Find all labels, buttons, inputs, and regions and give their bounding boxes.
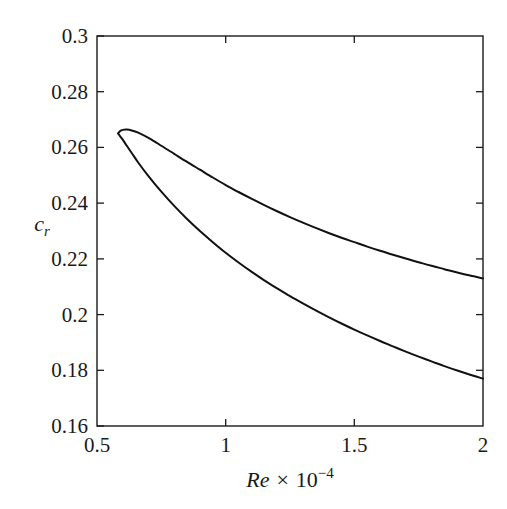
x-tick-labels: 0.5 1 1.5 2 xyxy=(84,433,488,457)
y-axis-title: cr xyxy=(34,211,50,239)
x-axis-title-symbol: Re xyxy=(245,467,269,492)
svg-text:cr: cr xyxy=(34,211,50,239)
x-tick-label-1: 1 xyxy=(220,433,231,457)
x-axis-title: Re×10−4 xyxy=(245,465,334,492)
y-tick-label-1: 0.18 xyxy=(51,358,88,382)
x-tick-marks xyxy=(226,36,355,426)
y-tick-label-2: 0.2 xyxy=(62,303,88,327)
y-tick-label-3: 0.22 xyxy=(51,247,88,271)
data-curves xyxy=(118,130,483,379)
axes-frame xyxy=(97,36,483,426)
y-axis-title-subscript: r xyxy=(44,223,50,239)
x-tick-label-0: 0.5 xyxy=(84,433,110,457)
x-axis-title-base: 10 xyxy=(296,467,318,492)
x-tick-label-3: 2 xyxy=(478,433,489,457)
y-tick-label-4: 0.24 xyxy=(51,191,88,215)
y-axis-title-symbol: c xyxy=(34,211,44,236)
y-tick-label-0: 0.16 xyxy=(51,414,88,438)
y-tick-label-6: 0.28 xyxy=(51,80,88,104)
y-tick-label-7: 0.3 xyxy=(62,24,88,48)
y-tick-label-5: 0.26 xyxy=(51,135,88,159)
y-tick-marks xyxy=(97,36,483,426)
plot-svg: 0.16 0.18 0.2 0.22 0.24 0.26 0.28 0.3 0.… xyxy=(0,0,507,509)
y-tick-labels: 0.16 0.18 0.2 0.22 0.24 0.26 0.28 0.3 xyxy=(51,24,88,438)
x-tick-label-2: 1.5 xyxy=(341,433,367,457)
curve-lower-branch xyxy=(118,134,483,379)
x-axis-title-exponent: −4 xyxy=(318,465,334,481)
x-axis-title-times: × xyxy=(276,467,288,492)
svg-text:Re×10−4: Re×10−4 xyxy=(245,465,334,492)
figure-container: 0.16 0.18 0.2 0.22 0.24 0.26 0.28 0.3 0.… xyxy=(0,0,507,509)
